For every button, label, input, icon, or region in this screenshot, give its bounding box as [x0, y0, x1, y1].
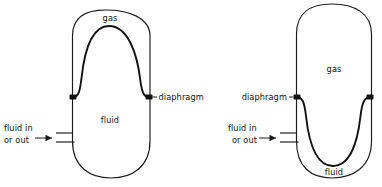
right-diaphragm-label: diaphragm	[242, 92, 287, 102]
left-diaphragm-anchor-right	[146, 95, 153, 100]
left-accumulator: gas fluid diaphragm fluid in or out	[4, 10, 204, 178]
left-port-arrow-head	[46, 135, 53, 141]
left-port-label-line2: or out	[4, 135, 30, 145]
right-diaphragm-anchor-left	[294, 95, 301, 100]
right-port-label-line1: fluid in	[228, 123, 257, 133]
right-diaphragm-anchor-right	[367, 95, 374, 100]
right-port-arrow-head	[270, 135, 277, 141]
diagram-canvas: gas fluid diaphragm fluid in or out	[0, 0, 382, 187]
right-diaphragm-membrane	[298, 97, 370, 166]
left-fluid-label: fluid	[101, 115, 119, 125]
right-fluid-label: fluid	[325, 167, 343, 177]
left-vessel-outline	[73, 10, 151, 178]
right-accumulator: gas fluid diaphragm fluid in or out	[228, 4, 374, 178]
accumulator-diagram: gas fluid diaphragm fluid in or out	[0, 0, 382, 187]
left-gas-label: gas	[103, 13, 118, 23]
left-diaphragm-label: diaphragm	[159, 92, 204, 102]
left-port-label-line1: fluid in	[4, 123, 33, 133]
left-diaphragm-membrane	[74, 26, 149, 97]
right-vessel-outline	[297, 4, 372, 178]
right-gas-label: gas	[327, 64, 342, 74]
left-diaphragm-anchor-left	[70, 95, 77, 100]
right-port-label-line2: or out	[232, 135, 258, 145]
